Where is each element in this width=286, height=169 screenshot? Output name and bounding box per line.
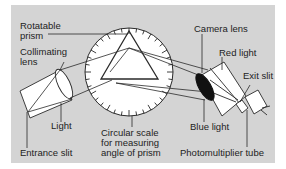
label-light: Light bbox=[51, 121, 72, 131]
label-rotatable-prism: Rotatable prism bbox=[20, 21, 61, 41]
label-camera-lens: Camera lens bbox=[194, 24, 248, 34]
label-entrance-slit: Entrance slit bbox=[20, 148, 72, 158]
collimator-tube bbox=[20, 67, 76, 118]
circular-scale bbox=[85, 28, 173, 116]
label-line: lens bbox=[20, 57, 67, 67]
label-blue-light: Blue light bbox=[190, 122, 229, 132]
label-circular-scale: Circular scale for measuring angle of pr… bbox=[101, 128, 161, 158]
label-line: angle of prism bbox=[101, 148, 161, 158]
label-collimating-lens: Collimating lens bbox=[20, 47, 67, 67]
label-exit-slit: Exit slit bbox=[243, 71, 273, 81]
label-line: prism bbox=[20, 31, 61, 41]
label-photomultiplier-tube: Photomultiplier tube bbox=[180, 148, 264, 158]
label-red-light: Red light bbox=[219, 48, 257, 58]
